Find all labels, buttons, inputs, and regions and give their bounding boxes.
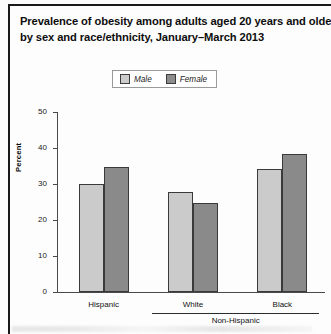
- legend-entry-female: Female: [166, 74, 207, 84]
- non-hispanic-bracket: [152, 313, 319, 314]
- y-tick-label-20: 20: [38, 215, 47, 224]
- chart-title: Prevalence of obesity among adults aged …: [20, 14, 320, 45]
- y-tick-0: 0: [53, 292, 57, 293]
- y-tick-label-50: 50: [38, 107, 47, 116]
- chart-legend: Male Female: [112, 70, 217, 88]
- chart-figure: Prevalence of obesity among adults aged …: [0, 0, 331, 334]
- left-rule: [8, 4, 10, 334]
- legend-entry-male: Male: [120, 74, 152, 84]
- bar-black-male: [257, 169, 282, 292]
- bar-hispanic-male: [79, 184, 104, 292]
- y-tick-30: 30: [53, 184, 57, 185]
- y-tick-label-10: 10: [38, 251, 47, 260]
- y-tick-label-0: 0: [43, 287, 47, 296]
- x-axis-label-hispanic: Hispanic: [64, 300, 144, 309]
- chart-title-line-2: by sex and race/ethnicity, January–March…: [20, 30, 320, 46]
- y-tick-20: 20: [53, 220, 57, 221]
- x-axis-label-white: White: [153, 300, 233, 309]
- legend-label-male: Male: [134, 75, 152, 84]
- legend-swatch-male-icon: [120, 74, 130, 84]
- x-axis-label-black: Black: [242, 300, 322, 309]
- y-tick-50: 50: [53, 112, 57, 113]
- y-axis-line: [57, 112, 58, 293]
- bar-white-female: [193, 203, 218, 292]
- bar-hispanic-female: [104, 167, 129, 292]
- plot-area: 01020304050: [57, 112, 325, 292]
- top-rule: [8, 4, 331, 6]
- non-hispanic-bracket-label: Non-Hispanic: [152, 316, 319, 325]
- legend-label-female: Female: [180, 75, 207, 84]
- x-axis-line: [57, 292, 325, 293]
- y-tick-label-40: 40: [38, 143, 47, 152]
- y-axis-label: Percent: [14, 143, 23, 172]
- y-tick-label-30: 30: [38, 179, 47, 188]
- bar-white-male: [168, 192, 193, 292]
- chart-title-line-1: Prevalence of obesity among adults aged …: [20, 14, 320, 30]
- scan-artifact: [12, 326, 312, 332]
- legend-swatch-female-icon: [166, 74, 176, 84]
- bar-black-female: [282, 154, 307, 292]
- y-tick-10: 10: [53, 256, 57, 257]
- y-tick-40: 40: [53, 148, 57, 149]
